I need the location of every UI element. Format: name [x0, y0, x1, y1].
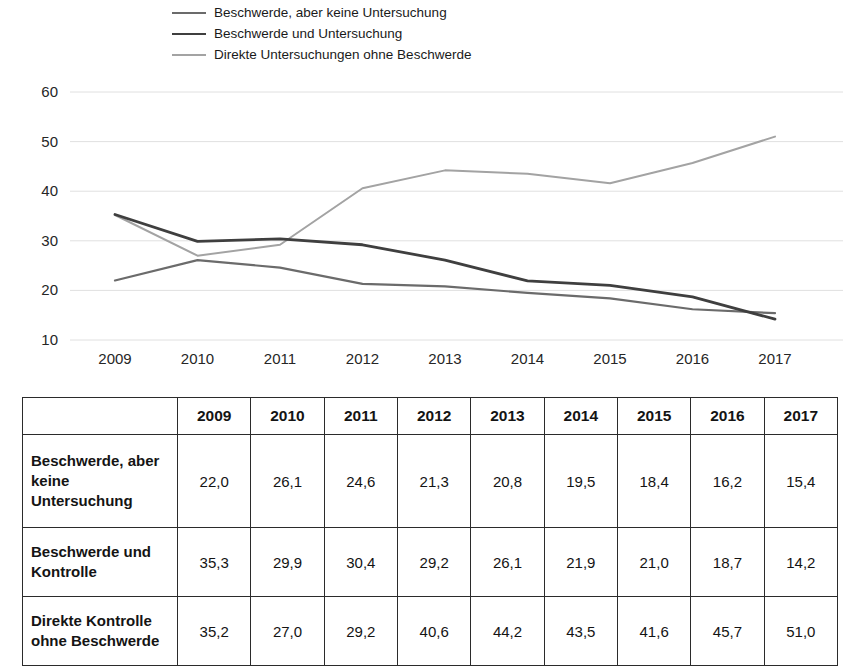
- table-cell: 26,1: [251, 435, 324, 528]
- table-cell: 21,9: [544, 528, 617, 597]
- table-cell: 22,0: [178, 435, 251, 528]
- table-cell: 35,3: [178, 528, 251, 597]
- table-cell: 24,6: [324, 435, 397, 528]
- y-axis-tick-label: 40: [41, 182, 58, 199]
- table-row-label: Beschwerde, aber keine Untersuchung: [23, 435, 178, 528]
- table-cell: 29,2: [324, 597, 397, 666]
- legend-label: Beschwerde und Untersuchung: [214, 26, 402, 41]
- y-axis-tick-label: 30: [41, 232, 58, 249]
- table-header-row: 200920102011201220132014201520162017: [23, 398, 838, 435]
- legend-line-swatch: [172, 33, 206, 35]
- table-cell: 21,0: [617, 528, 690, 597]
- table-head: 200920102011201220132014201520162017: [23, 398, 838, 435]
- table-header-cell: 2017: [764, 398, 837, 435]
- x-axis-tick-label: 2010: [181, 350, 214, 367]
- table-cell: 27,0: [251, 597, 324, 666]
- table-row-label: Beschwerde und Kontrolle: [23, 528, 178, 597]
- table-header-cell: 2009: [178, 398, 251, 435]
- table-cell: 16,2: [691, 435, 764, 528]
- y-axis-tick-label: 60: [41, 83, 58, 100]
- x-axis-tick-label: 2012: [346, 350, 379, 367]
- table-cell: 20,8: [471, 435, 544, 528]
- table-cell: 14,2: [764, 528, 837, 597]
- x-axis-tick-label: 2011: [264, 350, 296, 367]
- table-cell: 41,6: [617, 597, 690, 666]
- table-cell: 43,5: [544, 597, 617, 666]
- series-line-0: [115, 260, 775, 313]
- table-row: Beschwerde und Kontrolle35,329,930,429,2…: [23, 528, 838, 597]
- table-header-cell: 2011: [324, 398, 397, 435]
- table-row: Beschwerde, aber keine Untersuchung22,02…: [23, 435, 838, 528]
- y-axis-tick-label: 10: [41, 331, 58, 348]
- table-header-cell: 2010: [251, 398, 324, 435]
- x-axis-tick-label: 2015: [593, 350, 626, 367]
- x-axis-tick-label: 2016: [676, 350, 709, 367]
- table-header-cell: 2014: [544, 398, 617, 435]
- table-cell: 51,0: [764, 597, 837, 666]
- y-axis-tick-label: 50: [41, 133, 58, 150]
- data-table: 200920102011201220132014201520162017 Bes…: [22, 397, 838, 666]
- legend-item: Direkte Untersuchungen ohne Beschwerde: [172, 44, 471, 65]
- x-axis-tick-label: 2014: [511, 350, 544, 367]
- table-cell: 45,7: [691, 597, 764, 666]
- legend-item: Beschwerde und Untersuchung: [172, 23, 471, 44]
- x-axis-tick-label: 2009: [98, 350, 131, 367]
- line-chart: 6050403020102009201020112012201320142015…: [0, 68, 861, 388]
- table-row-label: Direkte Kontrolle ohne Beschwerde: [23, 597, 178, 666]
- series-line-1: [115, 215, 775, 320]
- x-axis-tick-label: 2013: [428, 350, 461, 367]
- legend-label: Beschwerde, aber keine Untersuchung: [214, 5, 447, 20]
- table-cell: 44,2: [471, 597, 544, 666]
- legend-line-swatch: [172, 12, 206, 14]
- table-header-cell: 2012: [397, 398, 470, 435]
- table-cell: 15,4: [764, 435, 837, 528]
- legend-item: Beschwerde, aber keine Untersuchung: [172, 2, 471, 23]
- table-cell: 18,7: [691, 528, 764, 597]
- table-cell: 19,5: [544, 435, 617, 528]
- table-cell: 29,2: [397, 528, 470, 597]
- table-cell: 26,1: [471, 528, 544, 597]
- legend-label: Direkte Untersuchungen ohne Beschwerde: [214, 47, 471, 62]
- table-header-cell: 2013: [471, 398, 544, 435]
- table-body: Beschwerde, aber keine Untersuchung22,02…: [23, 435, 838, 666]
- table-cell: 35,2: [178, 597, 251, 666]
- table-row: Direkte Kontrolle ohne Beschwerde35,227,…: [23, 597, 838, 666]
- table-cell: 40,6: [397, 597, 470, 666]
- x-axis-tick-label: 2017: [758, 350, 791, 367]
- table-header-cell: 2015: [617, 398, 690, 435]
- legend-line-swatch: [172, 54, 206, 56]
- series-line-2: [115, 137, 775, 256]
- chart-legend: Beschwerde, aber keine UntersuchungBesch…: [172, 2, 471, 65]
- table-header-corner: [23, 398, 178, 435]
- table-cell: 21,3: [397, 435, 470, 528]
- table-cell: 18,4: [617, 435, 690, 528]
- y-axis-tick-label: 20: [41, 281, 58, 298]
- table-header-cell: 2016: [691, 398, 764, 435]
- table-cell: 30,4: [324, 528, 397, 597]
- table-cell: 29,9: [251, 528, 324, 597]
